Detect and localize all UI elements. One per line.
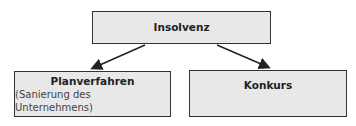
node-label: Insolvenz xyxy=(154,21,210,34)
node-planverfahren: Planverfahren (Sanierung des Unternehmen… xyxy=(14,71,171,117)
node-label: Planverfahren xyxy=(51,75,135,88)
node-label: Konkurs xyxy=(244,79,293,92)
arrow-to-konkurs xyxy=(217,45,268,67)
node-insolvenz: Insolvenz xyxy=(92,11,271,44)
node-sublabel: (Sanierung des Unternehmens) xyxy=(15,88,170,114)
arrow-to-planverfahren xyxy=(93,45,145,68)
node-konkurs: Konkurs xyxy=(189,70,347,117)
